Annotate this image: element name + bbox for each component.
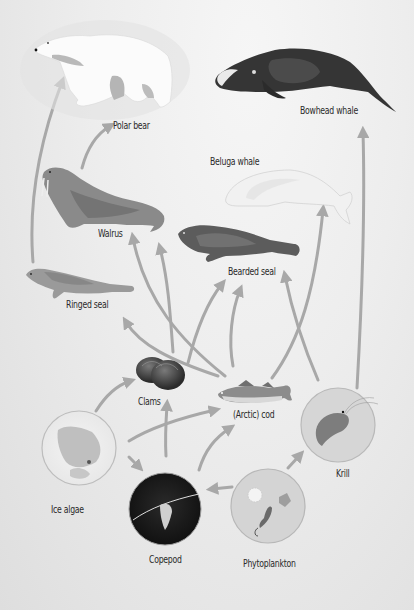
arrow-phyto-to-krill: [288, 455, 300, 468]
krill-icon: [301, 388, 378, 462]
arrow-cod-to-bearded-seal: [231, 290, 240, 366]
bearded-seal-icon: [178, 225, 300, 262]
label-phytoplankton: Phytoplankton: [243, 557, 296, 569]
label-krill: Krill: [336, 467, 349, 479]
arrow-ice-algae-to-clams: [96, 381, 130, 411]
polar-bear-icon: [20, 20, 190, 120]
ice-algae-icon: [42, 411, 116, 485]
label-bearded-seal: Bearded seal: [228, 265, 276, 277]
arrow-phyto-to-copepod: [212, 487, 232, 489]
bowhead-whale-icon: [215, 49, 396, 113]
arrow-krill-to-bearded-seal: [285, 276, 318, 380]
arrow-clams-to-walrus: [160, 248, 173, 352]
label-ice-algae: Ice algae: [51, 503, 84, 515]
label-ringed-seal: Ringed seal: [66, 298, 109, 310]
label-polar-bear: Polar bear: [113, 119, 150, 131]
label-walrus: Walrus: [98, 227, 123, 239]
arrow-copepod-to-clams: [166, 405, 167, 456]
food-web-graphic: [0, 0, 414, 610]
arrow-cod-to-beluga: [272, 210, 323, 378]
label-clams: Clams: [138, 395, 161, 407]
label-beluga-whale: Beluga whale: [210, 155, 259, 167]
label-copepod: Copepod: [149, 553, 182, 565]
copepod-icon: [129, 473, 201, 545]
arrow-ice-algae-to-copepod: [129, 457, 139, 467]
arrow-walrus-to-polar-bear: [82, 126, 110, 168]
cod-icon: [218, 380, 292, 403]
arrow-krill-to-bowhead: [357, 132, 364, 388]
arrow-ice-algae-to-cod: [129, 410, 215, 441]
label-arctic-cod: (Arctic) cod: [233, 408, 274, 420]
walrus-icon: [42, 168, 164, 232]
ringed-seal-icon: [26, 269, 134, 299]
label-bowhead-whale: Bowhead whale: [300, 104, 358, 116]
arrow-copepod-to-cod: [199, 428, 230, 470]
beluga-whale-icon: [226, 170, 352, 224]
food-web-diagram: Polar bear Bowhead whale Beluga whale Wa…: [0, 0, 414, 610]
phytoplankton-icon: [231, 469, 305, 543]
arrow-clams-to-bearded-seal: [188, 284, 222, 363]
